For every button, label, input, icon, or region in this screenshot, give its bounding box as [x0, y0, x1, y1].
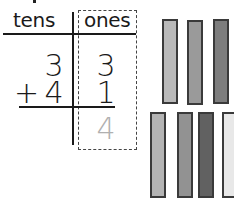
tens-rod-top-2	[187, 20, 203, 105]
column-divider	[72, 12, 74, 145]
tens-rod-bottom-1	[150, 112, 166, 198]
addend-2-tens: 4	[42, 78, 66, 108]
sum-line	[19, 106, 115, 108]
tens-header: tens	[13, 10, 55, 30]
sum-ones: 4	[94, 114, 118, 144]
tens-rod-top-3	[213, 19, 229, 104]
tens-rod-top-1	[162, 19, 178, 104]
addend-2-ones: 1	[94, 78, 118, 108]
tens-rod-bottom-4	[222, 112, 234, 198]
top-tick-mark	[33, 0, 36, 3]
tens-rod-bottom-3	[198, 112, 214, 198]
plus-sign: +	[14, 78, 38, 108]
tens-rod-bottom-2	[177, 112, 193, 198]
